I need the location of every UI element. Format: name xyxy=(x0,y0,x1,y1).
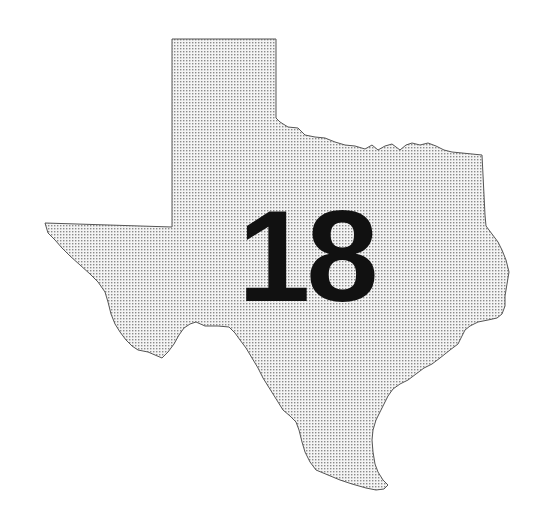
region-number-label: 18 xyxy=(238,183,375,329)
texas-map: 18 xyxy=(0,0,537,509)
